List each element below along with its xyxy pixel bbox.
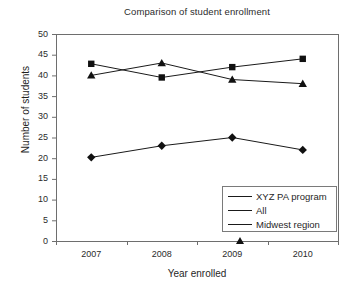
series-midwest-region — [87, 59, 307, 87]
legend-marker-diamond-icon — [227, 190, 253, 202]
data-point — [299, 146, 307, 154]
data-point — [159, 74, 165, 80]
legend-item-midwest-region: Midwest region — [227, 217, 320, 231]
legend-marker-square-icon — [227, 204, 253, 216]
data-point — [88, 61, 94, 67]
data-point — [229, 64, 235, 70]
data-point — [87, 153, 95, 161]
legend-item-all: All — [227, 203, 267, 217]
chart-legend: XYZ PA program All Midwest region — [222, 186, 337, 232]
series-line — [91, 63, 303, 84]
series-all — [88, 56, 306, 81]
legend-label: All — [253, 205, 267, 216]
legend-item-xyz-pa-program: XYZ PA program — [227, 189, 327, 203]
series-line — [91, 138, 303, 158]
series-xyz-pa-program — [87, 133, 307, 161]
data-point — [158, 142, 166, 150]
chart-container: Comparison of student enrollment Number … — [0, 0, 359, 291]
data-point — [158, 59, 166, 66]
data-point — [300, 56, 306, 62]
data-point — [228, 133, 236, 141]
legend-marker-triangle-icon — [227, 218, 253, 230]
legend-label: XYZ PA program — [253, 191, 327, 202]
series-line — [91, 59, 303, 78]
legend-label: Midwest region — [253, 219, 320, 230]
plot-area — [0, 0, 359, 291]
